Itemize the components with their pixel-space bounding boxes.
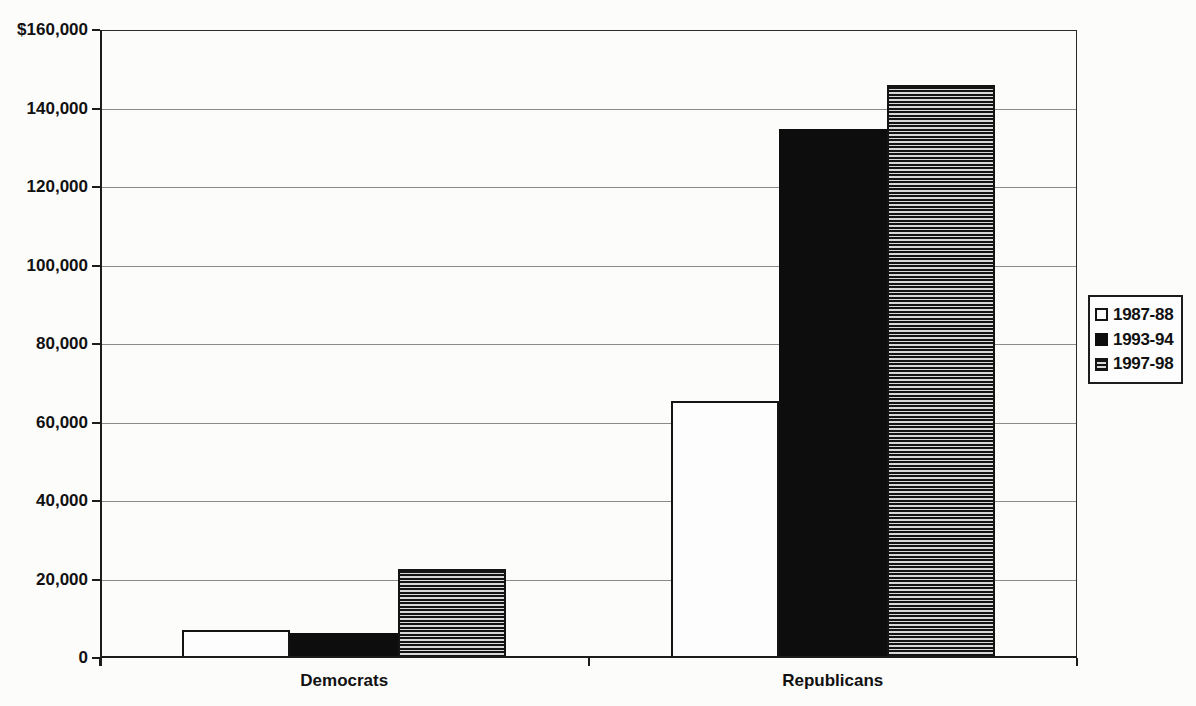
legend: 1987-881993-941997-98 [1088,295,1183,384]
bar-chart-figure: $160,000140,000120,000100,00080,00060,00… [0,0,1196,706]
y-axis-tick-label: 60,000 [0,413,88,433]
bar-republicans-1997-98 [887,85,995,658]
y-axis-tick [92,108,100,110]
y-axis-tick-label: 140,000 [0,99,88,119]
legend-item-1997-98: 1997-98 [1095,354,1176,374]
x-axis-category-label-republicans: Republicans [713,671,953,691]
y-axis-tick [92,186,100,188]
y-axis-tick [92,29,100,31]
x-axis-tick [588,658,590,666]
bar-republicans-1993-94 [779,129,887,658]
legend-swatch-icon [1095,358,1108,371]
bar-democrats-1993-94 [290,633,398,658]
y-axis-tick [92,265,100,267]
bar-democrats-1987-88 [182,630,290,658]
x-axis-category-label-democrats: Democrats [224,671,464,691]
plot-border-top [100,30,1077,31]
y-axis-tick-label: 120,000 [0,177,88,197]
y-axis-line [100,30,102,666]
y-axis-tick-label: 100,000 [0,256,88,276]
legend-label: 1993-94 [1113,330,1173,350]
y-axis-tick [92,500,100,502]
bar-democrats-1997-98 [398,569,506,658]
y-axis-tick-label: 80,000 [0,334,88,354]
legend-label: 1997-98 [1113,354,1173,374]
bar-republicans-1987-88 [671,401,779,658]
legend-swatch-icon [1095,308,1108,321]
legend-swatch-icon [1095,333,1108,346]
y-axis-tick-label: 0 [0,648,88,668]
y-axis-tick-label: $160,000 [0,20,88,40]
legend-item-1987-88: 1987-88 [1095,305,1176,325]
legend-item-1993-94: 1993-94 [1095,330,1176,350]
x-axis-tick [1076,658,1078,666]
y-axis-tick [92,422,100,424]
y-axis-tick-label: 20,000 [0,570,88,590]
plot-area [100,30,1077,658]
plot-border-right [1076,30,1077,664]
y-axis-tick [92,343,100,345]
legend-label: 1987-88 [1113,305,1173,325]
x-axis-line [100,656,1077,658]
y-axis-tick [92,579,100,581]
y-axis-tick-label: 40,000 [0,491,88,511]
